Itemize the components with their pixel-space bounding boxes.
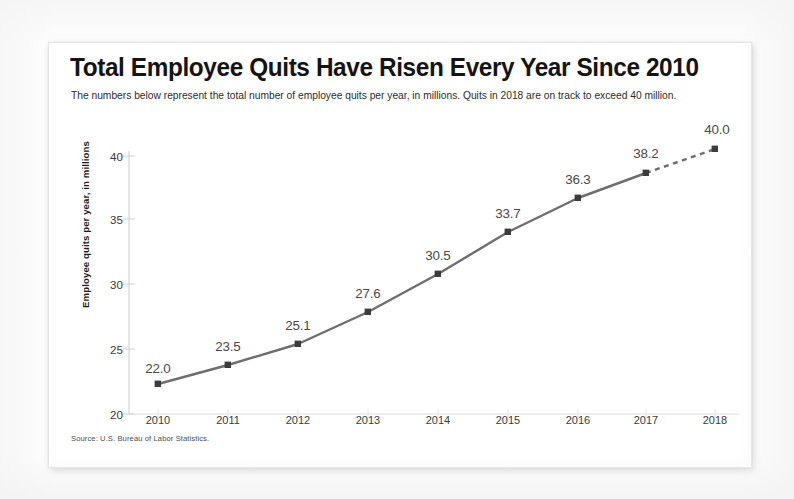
data-label-2011: 23.5 <box>198 339 258 354</box>
y-tick-35: 35 <box>89 213 123 226</box>
data-point-2011 <box>225 362 231 368</box>
y-tick-20: 20 <box>89 408 123 421</box>
chart-card: Total Employee Quits Have Risen Every Ye… <box>48 42 752 468</box>
data-point-2016 <box>575 195 581 201</box>
y-axis-ticks: 40 35 30 25 20 <box>89 43 123 467</box>
data-label-2014: 30.5 <box>408 248 468 263</box>
x-tick-2012: 2012 <box>268 414 328 426</box>
x-tick-2017: 2017 <box>616 414 676 426</box>
data-label-2016: 36.3 <box>548 172 608 187</box>
data-point-2018 <box>712 146 718 152</box>
data-label-2013: 27.6 <box>338 286 398 301</box>
data-label-2015: 33.7 <box>478 206 538 221</box>
data-label-2010: 22.0 <box>128 361 188 376</box>
x-tick-2011: 2011 <box>198 414 258 426</box>
x-tick-2018: 2018 <box>685 414 745 426</box>
data-point-2010 <box>155 381 161 387</box>
x-tick-2013: 2013 <box>338 414 398 426</box>
y-tick-25: 25 <box>89 343 123 356</box>
x-tick-2016: 2016 <box>548 414 608 426</box>
x-tick-2010: 2010 <box>128 414 188 426</box>
data-point-2015 <box>505 229 511 235</box>
data-label-2017: 38.2 <box>616 146 676 161</box>
plot-area: Employee quits per year, in millions 40 … <box>49 43 751 467</box>
data-label-2012: 25.1 <box>268 318 328 333</box>
data-point-2017 <box>643 170 649 176</box>
x-tick-2015: 2015 <box>478 414 538 426</box>
data-point-2012 <box>295 341 301 347</box>
data-point-2014 <box>435 271 441 277</box>
source-note: Source: U.S. Bureau of Labor Statistics. <box>71 434 209 443</box>
y-tick-30: 30 <box>89 278 123 291</box>
x-tick-2014: 2014 <box>408 414 468 426</box>
chart-canvas <box>49 43 751 467</box>
data-label-2018: 40.0 <box>687 122 747 137</box>
y-tick-40: 40 <box>89 150 123 163</box>
data-point-2013 <box>365 309 371 315</box>
